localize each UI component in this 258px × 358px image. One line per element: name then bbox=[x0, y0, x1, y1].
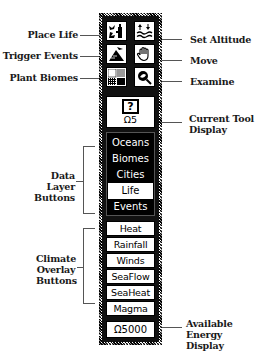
data-layer-events-button[interactable]: Events bbox=[108, 199, 153, 215]
data-layer-bracket-top bbox=[83, 146, 95, 147]
hand-icon bbox=[136, 46, 153, 62]
trigger-events-tool-button[interactable] bbox=[106, 44, 127, 64]
trigger-events-icon bbox=[108, 46, 125, 62]
tool-palette-inner: ? Ω5 Oceans Biomes Cities Life Events He… bbox=[102, 16, 159, 342]
available-energy-display: Ω5000 bbox=[106, 321, 155, 338]
data-layer-cities-button[interactable]: Cities bbox=[108, 167, 153, 183]
callout-climate-line2: Overlay bbox=[36, 264, 76, 275]
climate-bracket-top bbox=[83, 228, 95, 229]
callout-set-altitude: Set Altitude bbox=[190, 34, 256, 45]
set-altitude-icon bbox=[136, 23, 153, 39]
place-life-icon bbox=[108, 23, 125, 39]
data-layer-bracket-tick bbox=[76, 181, 83, 182]
current-tool-display: ? Ω5 bbox=[106, 96, 155, 128]
current-tool-cost: Ω5 bbox=[107, 114, 154, 126]
data-layer-life-button[interactable]: Life bbox=[108, 183, 153, 199]
examine-tool-button[interactable] bbox=[134, 67, 155, 87]
place-life-tool-button[interactable] bbox=[106, 21, 127, 41]
callout-data-layer: Data Layer Buttons bbox=[20, 170, 75, 203]
move-tool-button[interactable] bbox=[134, 44, 155, 64]
climate-bracket-bottom bbox=[83, 303, 95, 304]
callout-current-tool: Current Tool Display bbox=[189, 113, 257, 135]
data-layer-buttons: Oceans Biomes Cities Life Events bbox=[106, 132, 155, 216]
callout-data-layer-line1: Data Layer bbox=[20, 170, 75, 192]
callout-place-life: Place Life bbox=[20, 29, 78, 40]
data-layer-bracket-bottom bbox=[83, 213, 95, 214]
callout-trigger-events: Trigger Events bbox=[2, 50, 78, 61]
climate-magma-button[interactable]: Magma bbox=[106, 301, 155, 316]
climate-bracket-vertical bbox=[83, 228, 84, 304]
climate-rainfall-button[interactable]: Rainfall bbox=[106, 237, 155, 252]
data-layer-bracket-vertical bbox=[83, 146, 84, 214]
callout-energy-line1: Available bbox=[186, 318, 258, 329]
tool-palette: ? Ω5 Oceans Biomes Cities Life Events He… bbox=[99, 13, 162, 345]
biomes-icon bbox=[108, 69, 125, 85]
callout-examine: Examine bbox=[190, 76, 250, 87]
climate-seaflow-button[interactable]: SeaFlow bbox=[106, 269, 155, 284]
climate-winds-button[interactable]: Winds bbox=[106, 253, 155, 268]
callout-move: Move bbox=[190, 55, 250, 66]
callout-climate-line1: Climate bbox=[36, 253, 76, 264]
climate-heat-button[interactable]: Heat bbox=[106, 221, 155, 236]
data-layer-biomes-button[interactable]: Biomes bbox=[108, 151, 153, 167]
callout-climate: Climate Overlay Buttons bbox=[36, 253, 76, 286]
callout-current-tool-line1: Current Tool bbox=[189, 113, 257, 124]
magnifier-icon bbox=[136, 69, 153, 85]
callout-current-tool-line2: Display bbox=[189, 124, 257, 135]
tool-grid bbox=[106, 21, 155, 88]
callout-climate-line3: Buttons bbox=[36, 275, 76, 286]
question-mark-icon: ? bbox=[122, 99, 139, 114]
climate-seaheat-button[interactable]: SeaHeat bbox=[106, 285, 155, 300]
set-altitude-tool-button[interactable] bbox=[134, 21, 155, 41]
data-layer-oceans-button[interactable]: Oceans bbox=[108, 135, 153, 151]
callout-energy: Available Energy Display bbox=[186, 318, 258, 351]
callout-data-layer-line2: Buttons bbox=[20, 192, 75, 203]
callout-plant-biomes: Plant Biomes bbox=[8, 72, 78, 83]
plant-biomes-tool-button[interactable] bbox=[106, 67, 127, 87]
climate-overlay-buttons: Heat Rainfall Winds SeaFlow SeaHeat Magm… bbox=[106, 221, 155, 316]
callout-energy-line2: Energy Display bbox=[186, 329, 258, 351]
